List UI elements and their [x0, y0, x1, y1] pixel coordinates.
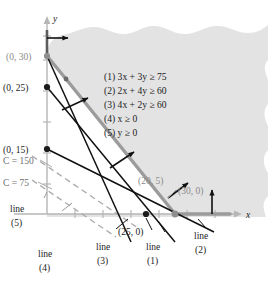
point-label-0-30: (0, 30)	[6, 52, 31, 63]
x-axis-label: x	[245, 210, 251, 220]
line-label-1-bottom: (1)	[147, 256, 158, 267]
figure-canvas: y x (0, 30) (0, 25) (0, 15) (20, 5) (30,…	[0, 0, 276, 284]
feasible-region	[47, 25, 268, 217]
line-label-2-bottom: (2)	[195, 245, 206, 256]
point-label-25-0: (25, 0)	[118, 227, 143, 238]
leader-line-1	[158, 221, 165, 232]
line-label-3-bottom: (3)	[97, 256, 108, 267]
point-0-30	[44, 53, 50, 59]
line-label-3-top: line	[96, 242, 110, 252]
line-label-2-top: line	[194, 231, 208, 241]
line-label-1-top: line	[146, 242, 160, 252]
objective-label-c150: C = 150	[3, 156, 34, 166]
objective-label-c75: C = 75	[3, 178, 29, 188]
leader-line-c75	[38, 182, 52, 189]
line-label-4-top: line	[38, 249, 52, 259]
line-label-4-bottom: (4)	[39, 263, 50, 274]
point-0-25	[44, 84, 50, 90]
line-label-5-bottom: (5)	[11, 218, 22, 229]
point-25-0	[143, 211, 149, 217]
point-30-0	[172, 211, 179, 218]
point-label-20-5: (20, 5)	[138, 176, 163, 187]
leader-line-25-0	[146, 218, 152, 230]
region-fill	[47, 25, 268, 217]
objective-line-c75	[32, 180, 116, 237]
constraint-text-5: (5) y ≥ 0	[104, 127, 137, 139]
constraint-text-1: (1) 3x + 3y ≥ 75	[104, 71, 167, 83]
linear-programming-figure: y x (0, 30) (0, 25) (0, 15) (20, 5) (30,…	[0, 0, 276, 284]
line-label-5-top: line	[10, 204, 24, 214]
point-label-0-25: (0, 25)	[3, 83, 28, 94]
y-axis-arrowhead	[44, 16, 51, 24]
constraint-text-2: (2) 2x + 4y ≥ 60	[104, 85, 167, 97]
y-axis-label: y	[52, 14, 58, 24]
point-label-0-15: (0, 15)	[3, 145, 28, 156]
constraint-text-3: (3) 4x + 2y ≥ 60	[104, 99, 167, 111]
point-label-30-0: (30, 0)	[178, 186, 203, 197]
objective-line-c150	[32, 156, 138, 228]
constraint-text-4: (4) x ≥ 0	[104, 113, 137, 125]
leader-line-c150	[40, 160, 52, 167]
point-bend	[64, 77, 69, 82]
point-0-15	[44, 146, 50, 152]
